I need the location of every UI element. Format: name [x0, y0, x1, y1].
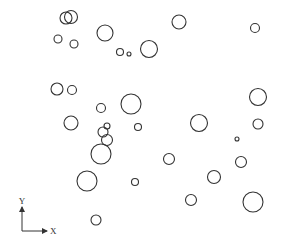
circle-particle: [70, 40, 78, 48]
circle-particle: [91, 215, 101, 225]
circle-particle: [77, 171, 97, 191]
circle-particle: [236, 157, 247, 168]
circle-particle: [97, 25, 113, 41]
circle-particle: [60, 12, 72, 24]
circle-particle: [117, 49, 124, 56]
circle-particle: [91, 144, 111, 164]
axes-indicator: Y X: [19, 196, 57, 236]
circle-particle: [64, 116, 78, 130]
circle-particle: [235, 137, 239, 141]
circle-particle: [54, 35, 62, 43]
x-axis-label: X: [50, 226, 57, 236]
circle-particle: [51, 83, 63, 95]
circle-particle: [250, 89, 267, 106]
circle-particle: [251, 24, 260, 33]
circle-particle: [104, 123, 110, 129]
circle-particle: [135, 124, 142, 131]
circle-particle: [68, 86, 77, 95]
y-axis-label: Y: [19, 196, 26, 206]
circle-particle: [186, 195, 197, 206]
diagram-svg: Y X: [0, 0, 284, 244]
circle-particle: [141, 41, 158, 58]
circle-particle: [243, 192, 263, 212]
circle-particle: [172, 15, 186, 29]
circles-group: [51, 11, 267, 226]
circle-particle: [253, 119, 263, 129]
circle-particle: [127, 52, 131, 56]
circle-particle: [97, 104, 106, 113]
circle-particle: [208, 171, 221, 184]
circle-particle: [121, 94, 141, 114]
circle-particle: [132, 179, 139, 186]
circle-particle: [191, 115, 208, 132]
particle-diagram: Y X: [0, 0, 284, 244]
circle-particle: [164, 154, 175, 165]
